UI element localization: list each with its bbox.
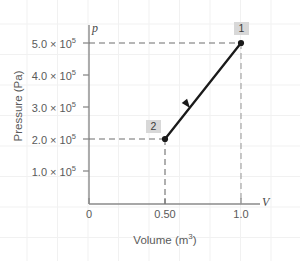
y-tick-label-4: 4.0 × 105 (18, 69, 76, 82)
y-tick-label-2: 2.0 × 105 (18, 133, 76, 146)
x-axis-title: Volume (m3) (90, 232, 240, 246)
x-tick-label-10: 1.0 (227, 209, 255, 220)
chart-figure: 5.0 × 105 4.0 × 105 3.0 × 105 2.0 × 105 … (0, 0, 300, 261)
point-label-2: 2 (146, 120, 161, 133)
y-tick-label-3: 3.0 × 105 (18, 101, 76, 114)
point-label-1: 1 (234, 22, 249, 35)
x-tick-label-0: 0 (79, 209, 99, 220)
y-tick-label-5: 5.0 × 105 (18, 37, 76, 50)
y-tick-label-1: 1.0 × 105 (18, 165, 76, 178)
x-axis-symbol: V (262, 196, 269, 208)
data-point-1 (238, 40, 244, 46)
y-axis-title: Pressure (Pa) (12, 51, 24, 161)
y-axis-symbol: p (92, 22, 98, 34)
process-line (165, 43, 241, 139)
x-tick-label-050: 0.50 (147, 209, 183, 220)
data-point-2 (162, 136, 168, 142)
